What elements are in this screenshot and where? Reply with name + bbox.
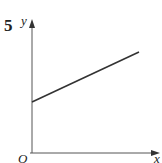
y-axis-arrow-icon [29,19,35,28]
graph-diagram [0,0,162,163]
x-axis-arrow-icon [151,150,160,156]
graph-line [32,52,139,102]
